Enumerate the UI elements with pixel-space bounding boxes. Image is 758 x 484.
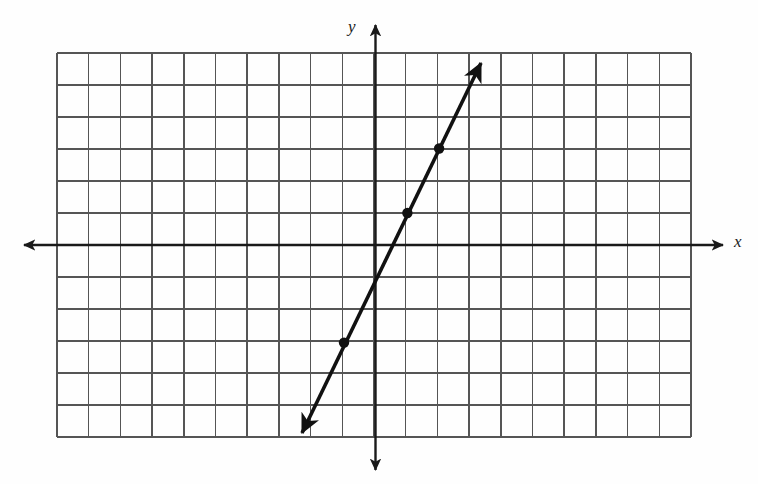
data-point-marker <box>402 208 412 218</box>
plotted-line <box>302 63 481 433</box>
data-point-marker <box>434 143 444 153</box>
coordinate-grid-figure: y x <box>0 0 758 484</box>
data-point-marker <box>339 337 349 347</box>
y-axis-label: y <box>348 18 356 35</box>
graph-canvas <box>0 0 758 484</box>
plotted-line-group <box>302 63 481 433</box>
x-axis-label: x <box>734 233 742 250</box>
